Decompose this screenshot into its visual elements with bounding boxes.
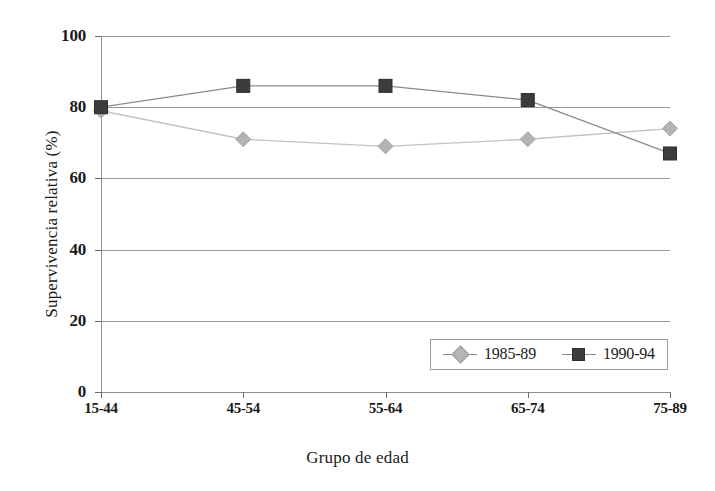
gridline: [101, 107, 670, 108]
y-tick-mark: [95, 36, 101, 37]
legend-item-1990-94[interactable]: 1990-94: [562, 345, 655, 363]
legend-diamond-marker-icon: [443, 347, 477, 361]
data-point-1990-94-55-64: [379, 79, 392, 92]
data-point-1990-94-65-74: [521, 94, 534, 107]
x-tick-label: 45-54: [188, 400, 298, 417]
y-tick-mark: [95, 107, 101, 108]
y-tick-mark: [95, 178, 101, 179]
x-tick-label: 75-89: [615, 400, 715, 417]
x-axis-title: Grupo de edad: [0, 448, 715, 468]
x-tick-mark: [101, 392, 102, 398]
legend-label-1985-89: 1985-89: [484, 345, 536, 363]
y-axis-line: [101, 36, 102, 392]
x-tick-mark: [528, 392, 529, 398]
x-tick-label: 65-74: [473, 400, 583, 417]
x-tick-mark: [386, 392, 387, 398]
y-tick-label: 0: [0, 382, 86, 402]
legend-square-marker-icon: [562, 347, 596, 361]
series-line-1985-89: [101, 111, 670, 147]
x-tick-label: 55-64: [331, 400, 441, 417]
legend-label-1990-94: 1990-94: [603, 345, 655, 363]
gridline: [101, 178, 670, 179]
data-point-1985-89-55-64: [378, 139, 393, 154]
gridline: [101, 250, 670, 251]
legend-item-1985-89[interactable]: 1985-89: [443, 345, 536, 363]
y-tick-label: 100: [0, 26, 86, 46]
x-tick-label: 15-44: [46, 400, 156, 417]
data-point-1985-89-75-89: [663, 121, 678, 136]
gridline: [101, 36, 670, 37]
data-series-layer: [0, 0, 715, 491]
series-line-1990-94: [101, 86, 670, 154]
data-point-1990-94-75-89: [664, 147, 677, 160]
gridline: [101, 321, 670, 322]
x-tick-mark: [243, 392, 244, 398]
x-tick-mark: [670, 392, 671, 398]
data-point-1990-94-45-54: [237, 79, 250, 92]
y-tick-mark: [95, 250, 101, 251]
data-point-1985-89-45-54: [236, 132, 251, 147]
y-axis-title: Supervivencia relativa (%): [42, 74, 62, 374]
y-tick-mark: [95, 321, 101, 322]
data-point-1985-89-65-74: [520, 132, 535, 147]
chart-legend: 1985-89 1990-94: [430, 339, 668, 370]
line-chart: 020406080100 15-4445-5455-6465-7475-89 G…: [0, 0, 715, 491]
